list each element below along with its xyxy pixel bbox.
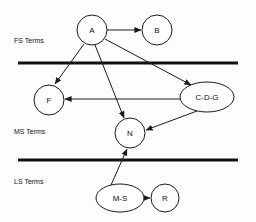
nodes-group: ABFC-D-GNM-SR: [34, 15, 234, 212]
node-cdg[interactable]: C-D-G: [180, 82, 234, 112]
edge-cdg-n: [146, 111, 197, 130]
edge-a-n: [95, 45, 124, 118]
node-label-r: R: [162, 194, 168, 203]
band-label-ls: LS Terms: [14, 178, 44, 185]
node-label-f: F: [47, 96, 52, 105]
node-label-a: A: [89, 26, 95, 35]
divider-fs-ms: [18, 62, 238, 65]
divider-ms-ls: [18, 159, 238, 162]
band-label-ms: MS Terms: [14, 128, 46, 135]
diagram-canvas: ABFC-D-GNM-SR FS TermsMS TermsLS Terms: [0, 0, 256, 222]
node-ms[interactable]: M-S: [96, 184, 144, 212]
node-label-ms: M-S: [113, 194, 128, 203]
node-label-cdg: C-D-G: [195, 93, 218, 102]
node-b[interactable]: B: [142, 15, 172, 45]
layered-term-diagram: ABFC-D-GNM-SR FS TermsMS TermsLS Terms: [0, 0, 256, 222]
node-a[interactable]: A: [77, 15, 107, 45]
band-label-fs: FS Terms: [14, 37, 44, 44]
node-f[interactable]: F: [34, 85, 64, 115]
node-n[interactable]: N: [115, 118, 145, 148]
edge-ms-n: [111, 149, 127, 185]
edges-group: [55, 30, 197, 198]
node-label-b: B: [154, 26, 159, 35]
node-r[interactable]: R: [151, 184, 179, 212]
node-label-n: N: [127, 129, 133, 138]
